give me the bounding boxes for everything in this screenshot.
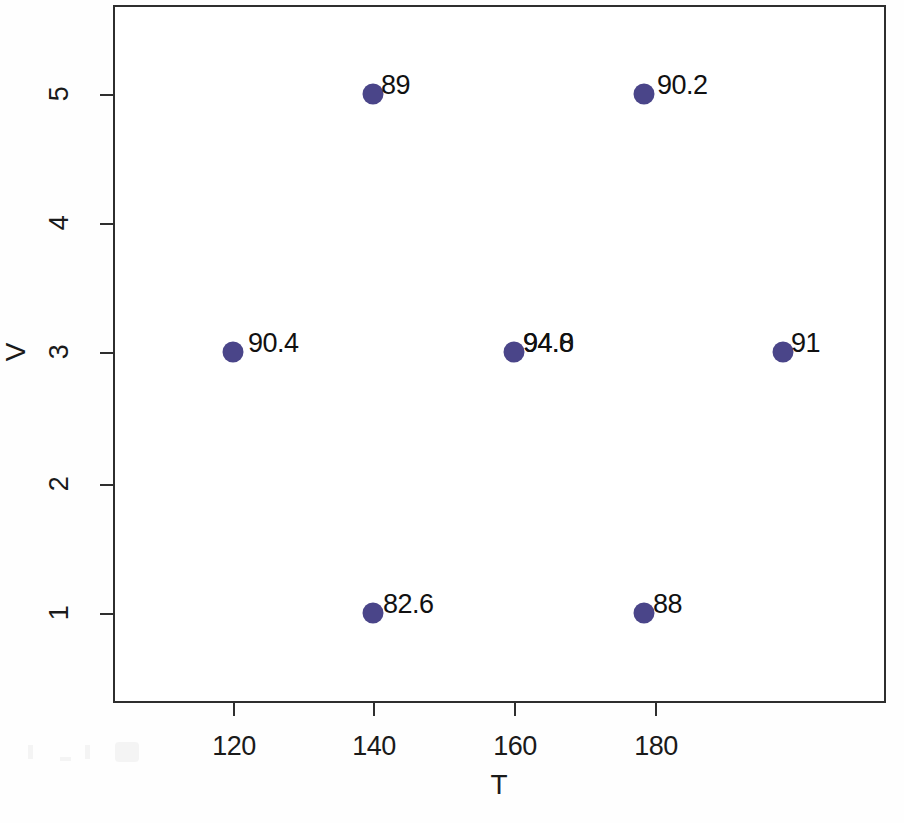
scan-artifact bbox=[60, 757, 71, 761]
scatter-plot-figure: 120 140 160 180 1 2 3 4 5 T V 89 90.2 90… bbox=[0, 0, 904, 823]
data-point-label: 82.6 bbox=[383, 589, 434, 620]
y-tick-1 bbox=[100, 613, 113, 615]
data-point bbox=[634, 84, 655, 105]
data-point bbox=[223, 342, 244, 363]
y-tick-label: 3 bbox=[44, 345, 75, 360]
scan-artifact bbox=[85, 745, 90, 759]
x-tick-140 bbox=[373, 703, 375, 716]
y-tick-label: 2 bbox=[44, 477, 75, 492]
data-point-label: 90.2 bbox=[657, 70, 708, 101]
data-point-label: 88 bbox=[653, 589, 682, 620]
data-point bbox=[634, 603, 655, 624]
y-tick-2 bbox=[100, 484, 113, 486]
data-point-label: 91 bbox=[791, 328, 820, 359]
data-point-label-overlap: 94.8 bbox=[523, 328, 574, 359]
data-point bbox=[363, 603, 384, 624]
scan-artifact bbox=[28, 745, 33, 759]
data-point bbox=[504, 342, 525, 363]
x-tick-label: 120 bbox=[212, 731, 256, 762]
x-tick-label: 140 bbox=[352, 731, 396, 762]
data-point-label: 89 bbox=[381, 70, 410, 101]
scan-artifact bbox=[115, 742, 139, 762]
x-tick-180 bbox=[655, 703, 657, 716]
y-tick-3 bbox=[100, 352, 113, 354]
y-tick-label: 4 bbox=[44, 216, 75, 231]
x-axis-title: T bbox=[490, 769, 507, 801]
data-point-label: 90.4 bbox=[248, 328, 299, 359]
y-tick-label: 1 bbox=[44, 606, 75, 621]
x-tick-160 bbox=[514, 703, 516, 716]
y-tick-label: 5 bbox=[44, 87, 75, 102]
y-tick-5 bbox=[100, 94, 113, 96]
x-tick-120 bbox=[233, 703, 235, 716]
y-tick-4 bbox=[100, 223, 113, 225]
y-axis-title: V bbox=[0, 343, 32, 362]
x-tick-label: 160 bbox=[493, 731, 537, 762]
x-tick-label: 180 bbox=[634, 731, 678, 762]
